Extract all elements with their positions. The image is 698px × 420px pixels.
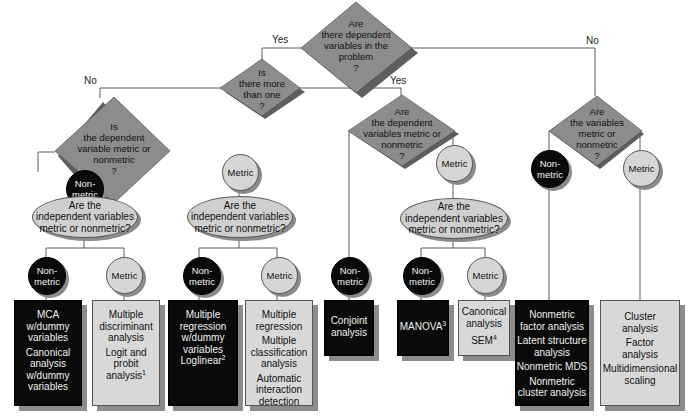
node-text: Metric (228, 167, 254, 178)
technique-word: MANOVA (400, 321, 443, 332)
edge-label-root-yes: Yes (272, 34, 288, 45)
question-text: independent variables (405, 213, 503, 225)
technique-text: Canonical analysis (462, 306, 506, 329)
technique-line: Multiple (256, 309, 303, 321)
node-independent-metric-3: Metric (467, 257, 504, 294)
technique-text: Multiple discriminant analysis (99, 309, 152, 344)
question-independent-variables-2: Are theindependent variablesmetric or no… (187, 196, 293, 238)
node-text: Metric (473, 270, 499, 281)
decision-text: problem (316, 51, 396, 62)
decision-text: variable metric or (62, 143, 166, 154)
technique-text: SEM4 (471, 335, 497, 347)
technique-line: Loglinear2 (180, 355, 227, 367)
technique-line: Nonmetric (518, 376, 586, 388)
decision-text: Is (232, 67, 292, 78)
technique-line: detection (256, 396, 302, 408)
technique-text: Nonmetric cluster analysis (518, 376, 586, 399)
technique-line: w/dummy (26, 370, 70, 382)
technique-line: probit (105, 358, 146, 370)
node-multi-dependent-nonmetric: Non-metric (331, 257, 369, 295)
technique-text: Multiple classification analysis (251, 335, 308, 370)
technique-text: Multiple regression w/dummy variables Lo… (180, 309, 227, 367)
decision-text: nonmetric (560, 139, 634, 150)
technique-text: MCA w/dummy variables (27, 309, 70, 344)
node-text: Non- (34, 265, 60, 276)
node-text: metric (537, 169, 563, 180)
edge-label-more-yes: Yes (390, 75, 406, 86)
technique-line: factor analysis (520, 321, 584, 333)
decision-text: there more (232, 78, 292, 89)
node-dependent-metric: Metric (222, 154, 259, 191)
technique-line: regression (180, 321, 227, 333)
question-text: Are the (36, 200, 134, 212)
technique-text: Logit and probit analysis1 (105, 347, 146, 382)
technique-line: Multiple (180, 309, 227, 321)
technique-line: analysis (622, 349, 658, 361)
technique-box-mca: MCA w/dummy variables Canonical analysis… (14, 300, 82, 406)
technique-line: regression (256, 321, 303, 333)
node-text: metric (409, 276, 435, 287)
decision-text: ? (316, 62, 396, 73)
technique-line: interaction (256, 384, 302, 396)
technique-line: analysis (331, 327, 368, 339)
technique-box-cluster: Cluster analysis Factor analysis Multidi… (600, 300, 680, 406)
question-independent-variables-3: Are theindependent variablesmetric or no… (400, 198, 508, 239)
technique-line: Nonmetric MDS (517, 361, 588, 373)
technique-line: analysis (462, 318, 506, 330)
node-text: metric (34, 276, 60, 287)
question-text: Are the (191, 200, 289, 212)
technique-text: MANOVA3 (400, 321, 447, 333)
decision-text: ? (560, 150, 634, 161)
node-text: Non- (337, 265, 363, 276)
technique-line: discriminant (99, 321, 152, 333)
decision-text: variables in the (316, 40, 396, 51)
technique-text: Latent structure analysis (517, 335, 586, 358)
technique-line: Multidimensional (603, 363, 677, 375)
decision-single-dependent-type: Is the dependent variable metric or nonm… (62, 121, 166, 176)
technique-line: Automatic (256, 373, 302, 385)
decision-text: nonmetric (354, 139, 450, 150)
technique-line: analysis (26, 358, 70, 370)
question-text: independent variables (36, 211, 134, 223)
decision-dependent-variables: Are there dependent variables in the pro… (316, 18, 396, 73)
decision-text: nonmetric (62, 154, 166, 165)
technique-line: scaling (603, 375, 677, 387)
technique-word: Loglinear (180, 355, 221, 366)
question-text: Are the (405, 201, 503, 213)
node-text: Metric (267, 270, 293, 281)
decision-text: there dependent (316, 29, 396, 40)
node-text: metric (337, 276, 363, 287)
node-variables-nonmetric: Non-metric (531, 150, 569, 188)
technique-box-multiple-regression-dummy: Multiple regression w/dummy variables Lo… (168, 300, 238, 406)
decision-text: variables metric or (354, 128, 450, 139)
node-text: Metric (629, 163, 655, 174)
node-variables-metric: Metric (623, 150, 660, 187)
technique-box-conjoint: Conjoint analysis (324, 300, 374, 356)
node-independent-nonmetric-3: Non-metric (403, 257, 441, 295)
technique-box-nonmetric-factor: Nonmetric factor analysis Latent structu… (515, 300, 589, 406)
question-text: metric or nonmetric? (405, 224, 503, 236)
technique-text: Canonical analysis w/dummy variables (26, 347, 70, 393)
technique-line: w/dummy (180, 332, 227, 344)
decision-text: Are (354, 106, 450, 117)
technique-line: Canonical (462, 306, 506, 318)
node-text: Non- (72, 178, 98, 189)
technique-line: analysis (622, 323, 658, 335)
technique-line: analysis1 (105, 370, 146, 382)
decision-text: than one (232, 89, 292, 100)
technique-text: Factor analysis (622, 337, 658, 360)
technique-line: Multiple (99, 309, 152, 321)
technique-line: analysis (99, 332, 152, 344)
decision-multiple-dependent-type: Are the dependent variables metric or no… (354, 106, 450, 161)
technique-line: variables (27, 332, 70, 344)
question-text: metric or nonmetric? (36, 223, 134, 235)
decision-text: Is (62, 121, 166, 132)
technique-line: Multiple (251, 335, 308, 347)
decision-text: Are (316, 18, 396, 29)
technique-line: Conjoint (331, 315, 368, 327)
technique-word: SEM (471, 335, 493, 346)
technique-box-multiple-regression: Multiple regression Multiple classificat… (245, 300, 313, 406)
technique-line: Logit and (105, 347, 146, 359)
technique-line: cluster analysis (518, 387, 586, 399)
technique-text: Nonmetric factor analysis (520, 309, 584, 332)
